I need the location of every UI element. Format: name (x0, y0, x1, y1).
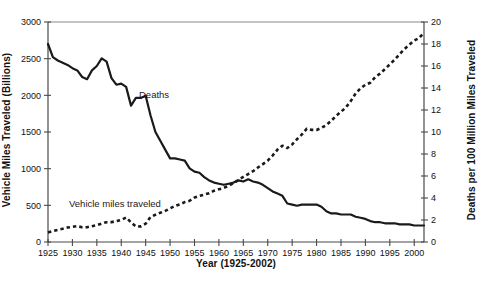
y-tick-label-right: 8 (431, 149, 436, 159)
x-tick-label: 1925 (38, 248, 58, 258)
x-tick-label: 1945 (136, 248, 156, 258)
y-tick-label-left: 500 (26, 201, 41, 211)
y-tick-label-left: 3000 (21, 17, 41, 27)
x-tick-label: 1950 (160, 248, 180, 258)
y-tick-label-right: 6 (431, 171, 436, 181)
y-tick-label-right: 16 (431, 61, 441, 71)
y-axis-left-ticks: 050010001500200025003000 (21, 17, 51, 247)
y-tick-label-left: 1500 (21, 127, 41, 137)
x-tick-label: 1960 (209, 248, 229, 258)
plot-area: 050010001500200025003000 024681012141618… (0, 0, 479, 281)
y-tick-label-left: 1000 (21, 164, 41, 174)
x-tick-label: 1940 (111, 248, 131, 258)
x-tick-label: 1965 (233, 248, 253, 258)
x-tick-label: 1935 (87, 248, 107, 258)
x-tick-label: 1990 (355, 248, 375, 258)
x-tick-label: 1955 (184, 248, 204, 258)
y-tick-label-right: 4 (431, 193, 436, 203)
y-tick-label-right: 10 (431, 127, 441, 137)
y-tick-label-right: 14 (431, 83, 441, 93)
x-tick-label: 2000 (404, 248, 424, 258)
x-tick-label: 1970 (258, 248, 278, 258)
x-tick-label: 1995 (380, 248, 400, 258)
x-tick-label: 1980 (307, 248, 327, 258)
x-tick-label: 1975 (282, 248, 302, 258)
y-tick-label-left: 0 (36, 237, 41, 247)
y-tick-label-right: 18 (431, 39, 441, 49)
y-tick-label-right: 12 (431, 105, 441, 115)
y-tick-label-right: 2 (431, 215, 436, 225)
x-tick-label: 1930 (62, 248, 82, 258)
axis-lines (48, 22, 424, 242)
y-tick-label-left: 2000 (21, 91, 41, 101)
series-line-deaths (48, 44, 424, 226)
y-tick-label-right: 0 (431, 237, 436, 247)
chart-figure: Vehicle Miles Traveled (Billions) Deaths… (0, 0, 479, 281)
y-tick-label-left: 2500 (21, 54, 41, 64)
y-tick-label-right: 20 (431, 17, 441, 27)
series-line-vehicle-miles-traveled (48, 33, 424, 233)
data-series-group (48, 33, 424, 233)
x-tick-label: 1985 (331, 248, 351, 258)
